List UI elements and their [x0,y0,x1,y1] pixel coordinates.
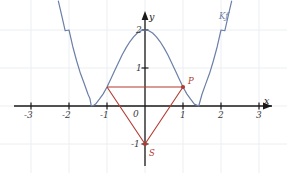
y-axis-label: y [149,12,154,22]
x-tick-label: 1 [180,111,186,120]
x-tick-label: 2 [218,111,224,120]
y-tick-label: -1 [131,140,140,149]
graph-figure: x y Kƒ 0 P S -3-2-1123-112 [0,0,287,173]
point-marker-p [181,85,185,89]
origin-label: 0 [133,110,139,119]
point-marker-s [143,142,147,146]
y-tick-label: 2 [136,26,142,35]
coordinate-plot [0,0,287,173]
y-tick-label: 1 [136,64,142,73]
curve-label-kf: Kƒ [219,12,229,21]
point-label-p: P [188,77,194,86]
x-tick-label: -1 [100,111,109,120]
x-tick-label: -3 [24,111,33,120]
x-tick-label: -2 [62,111,71,120]
point-label-s: S [149,149,155,158]
x-axis-label: x [264,96,269,106]
x-tick-label: 3 [256,111,262,120]
